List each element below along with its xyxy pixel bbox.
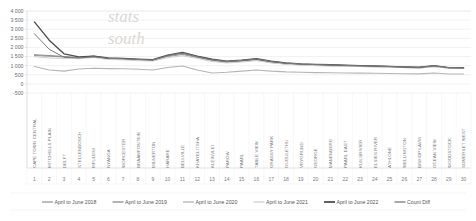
x-index-label: 4 [77, 176, 80, 182]
x-axis-index-labels: 1234567891011121314151617181920212223242… [27, 168, 471, 184]
y-tick-label: 4 000 [11, 8, 24, 14]
legend-label-2[interactable]: April to June 2019 [125, 199, 167, 205]
x-index-label: 5 [92, 176, 95, 182]
x-category-label: OCEAN VIEW [432, 138, 437, 168]
watermark-group: stats south [108, 7, 145, 48]
x-index-label: 6 [107, 176, 110, 182]
y-tick-label: 0 [21, 81, 24, 87]
x-category-label: ATHLONE [387, 147, 392, 168]
x-category-label: KUILSRIVIER [358, 140, 363, 168]
x-index-label: 29 [446, 176, 452, 182]
x-category-label: SOMERSET WEST [461, 128, 466, 168]
x-category-label: CAPE TOWN CENTRAL [32, 118, 37, 168]
x-index-label: 3 [63, 176, 66, 182]
x-category-label: BISHOP LAVIS [417, 137, 422, 168]
x-index-label: 26 [402, 176, 408, 182]
x-category-label: TABLE VIEW [254, 140, 259, 168]
x-index-label: 11 [180, 176, 185, 182]
x-category-label: DELFT [62, 153, 67, 168]
x-index-label: 25 [387, 176, 393, 182]
series-lines [34, 22, 463, 74]
x-category-label: MFULENI [91, 148, 96, 168]
x-category-label: BRAAMFONTEIN [136, 132, 141, 168]
x-index-label: 16 [254, 176, 260, 182]
x-index-label: 30 [461, 176, 467, 182]
y-tick-label: 1 500 [11, 53, 24, 59]
x-index-label: 7 [122, 176, 125, 182]
x-category-label: BELLVILLE [180, 145, 185, 168]
x-index-label: 28 [431, 176, 437, 182]
x-category-label: MANENBERG [328, 138, 333, 168]
x-index-label: 19 [298, 176, 304, 182]
watermark-text-1: stats [108, 7, 140, 26]
x-index-label: 21 [328, 176, 334, 182]
x-category-label: VRYGRUND [299, 142, 304, 168]
series-line-6 [34, 34, 463, 68]
x-index-label: 17 [268, 176, 274, 182]
x-index-label: 23 [357, 176, 363, 182]
legend-label-5[interactable]: April to June 2022 [337, 199, 379, 205]
y-tick-label: 2 000 [11, 44, 24, 50]
x-index-label: 20 [313, 176, 319, 182]
x-category-label: PAROW [225, 150, 230, 168]
x-index-label: 27 [416, 176, 422, 182]
x-index-label: 18 [283, 176, 289, 182]
x-index-label: 2 [48, 176, 51, 182]
line-chart: stats south 4 0003 5003 0002 5002 0001 5… [0, 0, 476, 221]
x-index-label: 22 [342, 176, 348, 182]
x-index-label: 24 [372, 176, 378, 182]
chart-legend: April to June 2018April to June 2019Apri… [10, 193, 466, 210]
x-category-label: ELSIES RIVER [373, 137, 378, 168]
y-tick-label: 1 000 [11, 63, 24, 69]
x-category-label: GRASSY PARK [269, 136, 274, 168]
x-index-label: 15 [239, 176, 245, 182]
x-index-label: 14 [224, 176, 230, 182]
x-index-label: 10 [165, 176, 171, 182]
x-category-label: GEORGE [313, 148, 318, 168]
x-category-label: MILNERTON [151, 141, 156, 168]
legend-label-6[interactable]: Count Diff [407, 199, 431, 205]
x-category-label: MITCHELLS PLAIN [47, 128, 52, 168]
y-tick-label: 2 500 [11, 35, 24, 41]
x-index-label: 9 [151, 176, 154, 182]
x-index-label: 13 [209, 176, 215, 182]
y-tick-label: 3 000 [11, 26, 24, 32]
x-category-label: WELLINGTON [402, 138, 407, 168]
x-index-label: 1 [33, 176, 36, 182]
y-axis-tick-labels: 4 0003 5003 0002 5002 0001 5001 0005000-… [11, 8, 24, 96]
x-category-label: STELLENBOSCH [77, 132, 82, 168]
chart-canvas: stats south 4 0003 5003 0002 5002 0001 5… [0, 0, 476, 221]
y-tick-label: 500 [15, 72, 24, 78]
x-category-label: KHAYELITSHA [195, 137, 200, 168]
x-category-label: WORCESTER [121, 139, 126, 168]
x-index-label: 12 [194, 176, 200, 182]
x-category-label: GUGULETHU [284, 140, 289, 168]
x-category-label: NYANGA [106, 149, 111, 168]
x-category-label: PAARL [239, 153, 244, 168]
legend-label-4[interactable]: April to June 2021 [266, 199, 308, 205]
x-category-label: HARARE [165, 149, 170, 168]
y-tick-label: -500 [13, 90, 23, 96]
x-category-label: WOODSTOCK [447, 138, 452, 168]
legend-label-1[interactable]: April to June 2018 [55, 199, 97, 205]
x-index-label: 8 [137, 176, 140, 182]
x-category-label: PAARL EAST [343, 140, 348, 168]
x-category-label: KLEINVLEI [210, 145, 215, 168]
legend-label-3[interactable]: April to June 2020 [196, 199, 238, 205]
y-tick-label: 3 500 [11, 17, 24, 23]
